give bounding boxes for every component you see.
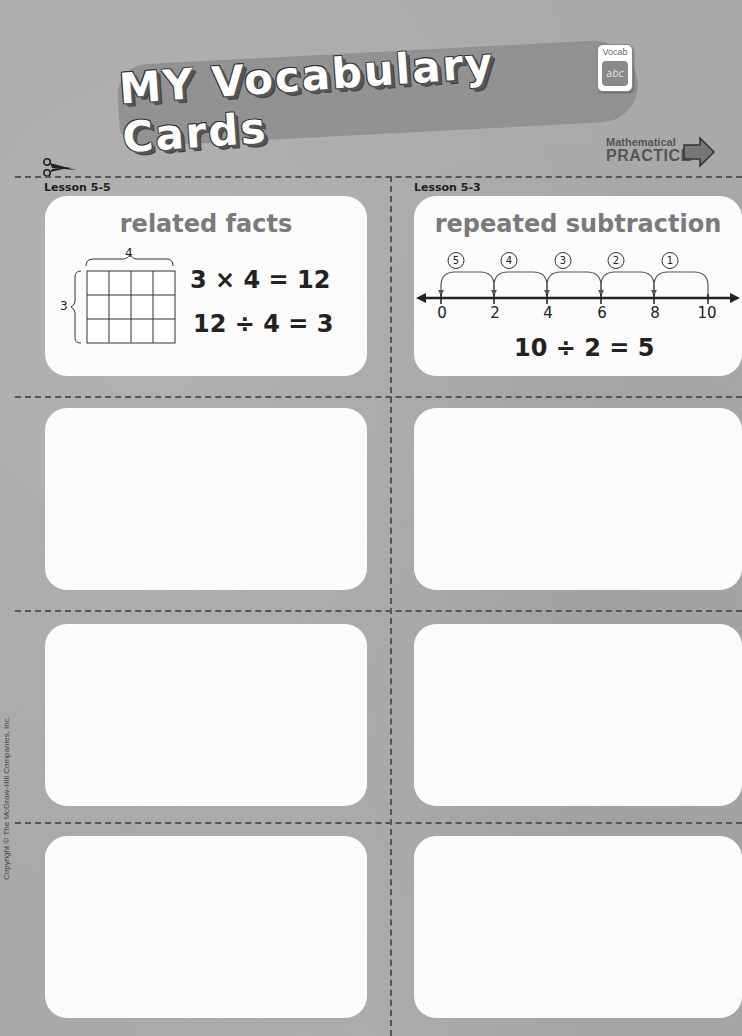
tick-label: 6: [597, 304, 607, 322]
arrow-right-icon: [682, 136, 716, 168]
copyright-text: Copyright © The McGraw-Hill Companies, I…: [2, 720, 11, 880]
equation-division: 12 ÷ 4 = 3: [193, 310, 333, 338]
jump-label: 1: [662, 252, 679, 269]
jump-label: 2: [608, 252, 625, 269]
cut-line-horizontal-3: [15, 610, 742, 612]
card-term: repeated subtraction: [414, 210, 742, 238]
tick-label: 4: [543, 304, 553, 322]
array-row-label: 3: [60, 299, 68, 313]
tick-label: 10: [697, 304, 716, 322]
blank-vocab-card[interactable]: [414, 408, 742, 590]
vocab-card-repeated-subtraction: repeated subtraction 5 4 3 2: [414, 196, 742, 376]
math-practice-line2: PRACTICE: [606, 147, 692, 165]
card-term: related facts: [45, 210, 367, 238]
lesson-label: Lesson 5-3: [414, 181, 481, 194]
vocab-badge-label: Vocab: [598, 47, 632, 57]
blank-vocab-card[interactable]: [414, 624, 742, 806]
cut-line-vertical: [390, 176, 392, 1036]
tick-label: 0: [437, 304, 447, 322]
tick-label: 2: [490, 304, 500, 322]
vocab-badge: Vocab abc: [597, 44, 633, 92]
abc-icon: abc: [602, 61, 628, 86]
equation-multiplication: 3 × 4 = 12: [190, 266, 330, 294]
blank-vocab-card[interactable]: [45, 624, 367, 806]
scissors-icon: [42, 158, 78, 178]
equation-division: 10 ÷ 2 = 5: [514, 334, 654, 362]
jump-label: 3: [555, 252, 572, 269]
lesson-label: Lesson 5-5: [44, 181, 111, 194]
cut-line-horizontal-1: [15, 176, 742, 178]
array-col-label: 4: [125, 246, 133, 260]
jump-label: 4: [501, 252, 518, 269]
blank-vocab-card[interactable]: [45, 836, 367, 1018]
blank-vocab-card[interactable]: [414, 836, 742, 1018]
blank-vocab-card[interactable]: [45, 408, 367, 590]
array-diagram: [53, 246, 228, 356]
mathematical-practice-link[interactable]: Mathematical PRACTICE: [606, 136, 716, 170]
cut-line-horizontal-4: [15, 822, 742, 824]
tick-label: 8: [650, 304, 660, 322]
cut-line-horizontal-2: [15, 396, 742, 398]
jump-label: 5: [448, 252, 465, 269]
vocab-card-related-facts: related facts 4 3 3 × 4 = 12 12 ÷ 4 = 3: [45, 196, 367, 376]
